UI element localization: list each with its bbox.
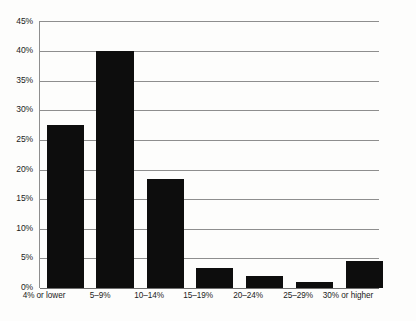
y-tick-label-35: 35% (0, 75, 33, 85)
bar-1 (96, 51, 134, 288)
x-axis-baseline (40, 288, 379, 289)
gridline-20 (40, 170, 379, 171)
bar-3 (196, 268, 233, 288)
y-tick-label-10: 10% (0, 223, 33, 233)
y-tick-label-15: 15% (0, 193, 33, 203)
bar-5 (296, 282, 333, 288)
gridline-10 (40, 229, 379, 230)
y-tick-label-20: 20% (0, 164, 33, 174)
x-tick-label-6: 30% or higher (305, 291, 391, 300)
y-tick-label-30: 30% (0, 104, 33, 114)
gridline-5 (40, 258, 379, 259)
y-tick-label-5: 5% (0, 252, 33, 262)
y-tick-label-40: 40% (0, 45, 33, 55)
bar-0 (47, 125, 84, 288)
bar-2 (147, 179, 184, 288)
gridline-35 (40, 81, 379, 82)
gridline-30 (40, 110, 379, 111)
plot-area (39, 21, 379, 288)
bar-4 (246, 276, 283, 288)
y-tick-label-25: 25% (0, 134, 33, 144)
bar-6 (346, 261, 383, 288)
y-tick-label-45: 45% (0, 16, 33, 26)
gridline-40 (40, 51, 379, 52)
gridline-15 (40, 199, 379, 200)
bar-chart: 45% 40% 35% 30% 25% 20% 15% 10% 5% 0% (0, 0, 416, 321)
gridline-25 (40, 140, 379, 141)
